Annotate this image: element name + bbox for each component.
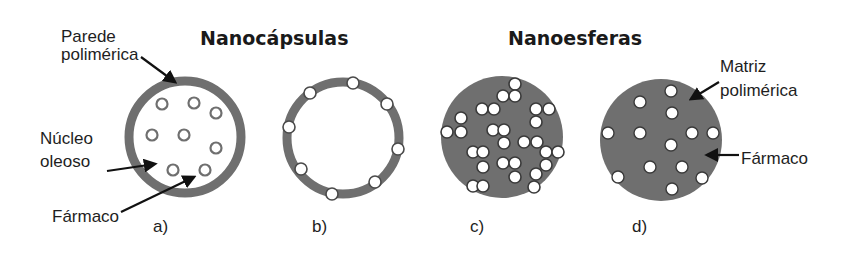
label-parede-line2: polimérica (61, 45, 139, 64)
drug-particle (665, 139, 677, 151)
drug-particle (476, 103, 488, 115)
drug-particle (509, 171, 521, 183)
drug-particle (552, 146, 564, 158)
drug-particle (666, 183, 678, 195)
drug-particle (488, 103, 500, 115)
drug-particle (441, 126, 453, 138)
drug-particle (509, 90, 521, 102)
nanoparticle-diagram: Nanocápsulas Nanoesferas Parede poliméri… (0, 0, 847, 258)
drug-particle (211, 143, 222, 154)
panel-label-c: c) (470, 217, 484, 236)
panel-a-nanocapsule-core (129, 81, 241, 193)
drug-particle (543, 103, 555, 115)
drug-particle (509, 157, 521, 169)
drug-particle (498, 137, 510, 149)
drug-particle (304, 87, 316, 99)
drug-particle (666, 107, 678, 119)
drug-particle (381, 98, 393, 110)
drug-particle (179, 130, 190, 141)
drug-particle (530, 116, 542, 128)
drug-particle (477, 180, 489, 192)
drug-particle (602, 127, 614, 139)
drug-particle (189, 98, 200, 109)
drug-particle (477, 146, 489, 158)
drug-particle (347, 77, 359, 89)
drug-particle (530, 103, 542, 115)
panel-c-nanosphere-dense (441, 76, 564, 198)
drug-particle (498, 124, 510, 136)
panel-label-b: b) (312, 217, 327, 236)
drug-particle (147, 130, 158, 141)
panel-label-d: d) (632, 217, 647, 236)
drug-particle (392, 143, 404, 155)
drug-particle (634, 127, 646, 139)
panel-b-nanocapsule-wall (283, 77, 404, 200)
drug-particle (509, 78, 521, 90)
drug-particle (455, 126, 467, 138)
drug-particle (528, 181, 540, 193)
drug-particle (531, 136, 543, 148)
label-parede-line1: Parede (61, 27, 116, 46)
panel-label-a: a) (153, 217, 168, 236)
drug-particle (634, 96, 646, 108)
drug-particle (157, 99, 168, 110)
panel-d-nanosphere-dispersed (600, 79, 722, 201)
drug-particle (295, 163, 307, 175)
drug-particle (665, 85, 677, 97)
arrow-nucleo-oleoso (107, 164, 155, 171)
label-matriz-line1: Matriz (720, 57, 766, 76)
drug-particle (707, 127, 719, 139)
drug-particle (326, 188, 338, 200)
drug-particle (540, 146, 552, 158)
label-farmaco-left: Fármaco (52, 207, 119, 226)
label-matriz-line2: polimérica (720, 81, 798, 100)
drug-particle (676, 161, 688, 173)
drug-particle (644, 161, 656, 173)
title-nanocapsulas: Nanocápsulas (200, 27, 348, 49)
drug-particle (497, 157, 509, 169)
polymeric-wall (287, 82, 399, 194)
drug-particle (612, 171, 624, 183)
drug-particle (369, 176, 381, 188)
label-farmaco-right: Fármaco (741, 149, 808, 168)
drug-particle (477, 161, 489, 173)
drug-particle (518, 136, 530, 148)
drug-particle (200, 165, 211, 176)
drug-particle (686, 127, 698, 139)
label-nucleo-line1: Núcleo (40, 129, 93, 148)
arrow-parede-polimerica (141, 57, 175, 82)
label-nucleo-line2: oleoso (40, 152, 90, 171)
drug-particle (211, 108, 222, 119)
drug-particle (530, 168, 542, 180)
title-nanoesferas: Nanoesferas (508, 27, 642, 49)
drug-particle (540, 159, 552, 171)
drug-particle (497, 90, 509, 102)
drug-particle (455, 112, 467, 124)
drug-particles (147, 98, 222, 176)
drug-particle (696, 172, 708, 184)
drug-particle (168, 165, 179, 176)
drug-particle (283, 121, 295, 133)
